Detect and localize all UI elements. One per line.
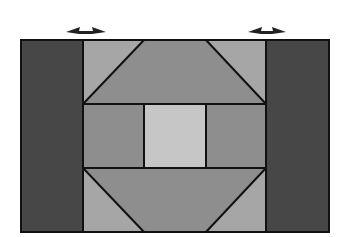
middle-right-panel xyxy=(206,104,266,168)
middle-left-panel xyxy=(83,104,144,168)
right-dark-column xyxy=(266,40,329,232)
geometric-block-diagram xyxy=(0,0,348,237)
center-square xyxy=(144,104,206,168)
left-dark-column xyxy=(21,40,83,232)
